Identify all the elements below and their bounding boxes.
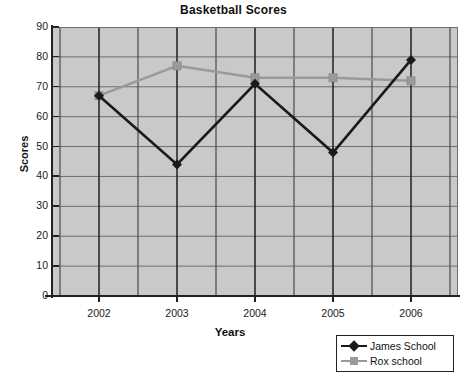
- y-tick-label: 70: [14, 81, 48, 91]
- square-marker-icon: [350, 357, 358, 365]
- y-tick-label: 80: [14, 51, 48, 61]
- legend-label-rox-school: Rox school: [370, 355, 422, 367]
- y-tick-mark: [53, 175, 59, 177]
- x-tick-label: 2003: [147, 307, 207, 319]
- legend-item-rox-school: Rox school: [341, 353, 449, 368]
- y-tick-mark: [53, 86, 59, 88]
- x-tick-mark: [332, 296, 334, 302]
- x-tick-label: 2005: [303, 307, 363, 319]
- chart-title: Basketball Scores: [0, 3, 467, 17]
- y-tick-label: 30: [14, 200, 48, 210]
- y-tick-mark: [53, 205, 59, 207]
- y-axis-title: Scores: [18, 114, 30, 194]
- y-tick-mark: [53, 56, 59, 58]
- y-tick-mark: [53, 146, 59, 148]
- y-tick-mark: [53, 235, 59, 237]
- y-axis-line: [51, 25, 53, 298]
- x-tick-label: 2006: [381, 307, 441, 319]
- legend-item-james-school: James School: [341, 338, 449, 353]
- legend-label-james-school: James School: [370, 340, 436, 352]
- x-axis-line: [45, 295, 460, 297]
- plot-canvas: [52, 27, 458, 296]
- y-tick-mark: [53, 26, 59, 28]
- y-tick-mark: [53, 295, 59, 297]
- diamond-marker-icon: [348, 340, 359, 351]
- x-tick-mark: [176, 296, 178, 302]
- x-tick-mark: [98, 296, 100, 302]
- y-tick-label: 90: [14, 21, 48, 31]
- x-tick-label: 2002: [69, 307, 129, 319]
- x-axis-title: Years: [160, 326, 300, 338]
- y-tick-label: 10: [14, 260, 48, 270]
- x-tick-mark: [254, 296, 256, 302]
- x-tick-label: 2004: [225, 307, 285, 319]
- plot-area: [52, 27, 458, 296]
- legend-swatch-rox-school: [341, 355, 367, 366]
- y-tick-mark: [53, 265, 59, 267]
- legend-swatch-james-school: [341, 340, 367, 351]
- basketball-scores-chart: Basketball Scores 0102030405060708090 20…: [0, 0, 467, 378]
- y-tick-label: 0: [14, 290, 48, 300]
- y-tick-mark: [53, 116, 59, 118]
- chart-legend: James School Rox school: [336, 335, 454, 372]
- x-tick-mark: [410, 296, 412, 302]
- y-tick-label: 20: [14, 230, 48, 240]
